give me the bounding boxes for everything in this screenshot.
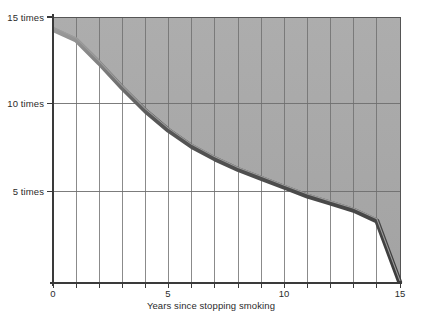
y-tick-label-5: 5 times	[0, 186, 44, 197]
x-tick-label-5: 5	[158, 288, 178, 299]
x-axis-title: Years since stopping smoking	[0, 300, 422, 311]
x-tick-label-15: 15	[390, 288, 410, 299]
y-tick-label-10: 10 times	[0, 98, 44, 109]
lung-cancer-risk-chart	[0, 0, 422, 322]
x-tick-label-10: 10	[274, 288, 294, 299]
y-tick-label-15: 15 times	[0, 12, 44, 23]
x-tick-label-0: 0	[43, 288, 63, 299]
